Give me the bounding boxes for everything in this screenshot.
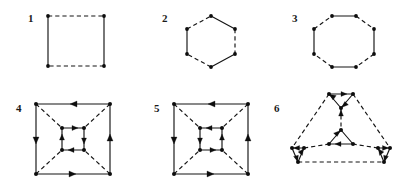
arrow-head: [171, 137, 177, 144]
figure-2-graph: [160, 8, 275, 78]
arrow-head: [335, 142, 341, 147]
arrow-head: [220, 134, 225, 140]
edge-spoke-left-dashed: [304, 144, 329, 148]
vertex-dot: [327, 142, 331, 146]
vertex-dot: [233, 27, 237, 31]
vertex-dot: [312, 52, 316, 56]
vertex-dot: [376, 146, 380, 150]
arrow-head: [341, 92, 347, 97]
arrow-head: [334, 131, 341, 137]
vertex-dot: [354, 65, 358, 69]
figure-panel-5: 5: [152, 96, 272, 184]
edge-upper-left-dashed: [187, 16, 211, 29]
arrow-head: [82, 138, 87, 144]
arrow-head: [69, 171, 76, 177]
edge-lower-right-solid: [211, 54, 235, 67]
vertex-dot: [372, 27, 376, 31]
vertex-dot: [372, 52, 376, 56]
figure-sheet: 1 2: [0, 0, 408, 190]
vertex-dot: [82, 148, 86, 152]
arrow-head: [70, 101, 77, 107]
vertex-dot: [46, 14, 50, 18]
figure-panel-1: 1: [26, 8, 136, 78]
figure-panel-6: 6: [272, 88, 408, 190]
edge-diagonal-tl-dashed: [36, 104, 62, 128]
vertex-dot: [388, 146, 392, 150]
edge-diagonal-tr-dashed: [222, 104, 248, 128]
vertex-dot: [60, 126, 64, 130]
arrow-head: [208, 101, 215, 107]
vertex-dot: [351, 92, 355, 96]
arrow-head: [210, 148, 216, 153]
vertex-dot: [209, 65, 213, 69]
arrow-head: [33, 137, 39, 144]
edge-diagonal-tr-dashed: [84, 104, 110, 128]
vertex-dot: [60, 148, 64, 152]
figure-4-graph: [14, 96, 134, 184]
edge-diagonal-br-dashed: [222, 150, 248, 174]
edge-upper-left-dashed: [314, 16, 332, 29]
figure-1-graph: [26, 8, 136, 78]
vertex-dot: [172, 172, 176, 176]
vertex-dot: [246, 172, 250, 176]
vertex-dot: [220, 148, 224, 152]
vertex-dot: [102, 14, 106, 18]
arrow-head: [330, 95, 337, 100]
figure-6-graph: [272, 88, 408, 190]
arrow-head: [207, 171, 214, 177]
arrow-head: [68, 148, 74, 153]
edge-diagonal-bl-dashed: [174, 150, 200, 174]
arrow-head: [72, 126, 78, 131]
arrow-head: [339, 110, 344, 116]
edge-lower-right-dashed: [356, 54, 374, 67]
vertex-dot: [330, 14, 334, 18]
arrow-head: [107, 134, 113, 141]
edge-upper-right-dashed: [356, 16, 374, 29]
arrow-head: [245, 134, 251, 141]
figure-panel-2: 2: [160, 8, 275, 78]
figure-3-graph: [290, 8, 408, 78]
edge-big-right-dashed: [353, 94, 390, 148]
vertex-dot: [82, 126, 86, 130]
figure-5-graph: [152, 96, 272, 184]
vertex-dot: [185, 27, 189, 31]
vertex-dot: [220, 126, 224, 130]
vertex-dot: [382, 160, 386, 164]
vertex-dot: [339, 128, 343, 132]
vertex-dot: [296, 160, 300, 164]
vertex-dot: [354, 14, 358, 18]
vertex-dot: [108, 172, 112, 176]
vertex-dot: [246, 102, 250, 106]
figure-panel-4: 4: [14, 96, 134, 184]
edge-upper-right-solid: [211, 16, 235, 29]
arrow-head: [342, 102, 349, 108]
vertex-dot: [102, 64, 106, 68]
vertex-dot: [302, 146, 306, 150]
vertex-dot: [198, 148, 202, 152]
vertex-dot: [330, 65, 334, 69]
vertex-dot: [233, 52, 237, 56]
figure-panel-3: 3: [290, 8, 408, 78]
edge-diagonal-br-dashed: [84, 150, 110, 174]
vertex-dot: [290, 146, 294, 150]
vertex-dot: [339, 106, 343, 110]
edge-diagonal-tl-dashed: [174, 104, 200, 128]
vertex-dot: [327, 92, 331, 96]
edge-diagonal-bl-dashed: [36, 150, 62, 174]
vertex-dot: [351, 142, 355, 146]
vertex-dot: [34, 102, 38, 106]
edge-spoke-right-dashed: [353, 144, 378, 148]
arrow-head: [383, 146, 389, 151]
vertex-dot: [172, 102, 176, 106]
vertex-dot: [108, 102, 112, 106]
vertex-dot: [46, 64, 50, 68]
edge-lower-left-dashed: [314, 54, 332, 67]
arrow-head: [198, 138, 203, 144]
vertex-dot: [185, 52, 189, 56]
vertex-dot: [198, 126, 202, 130]
edge-lower-left-dashed: [187, 54, 211, 67]
arrow-head: [206, 126, 212, 131]
edge-centre-tri-right-solid: [341, 130, 353, 144]
vertex-dot: [34, 172, 38, 176]
vertex-dot: [312, 27, 316, 31]
